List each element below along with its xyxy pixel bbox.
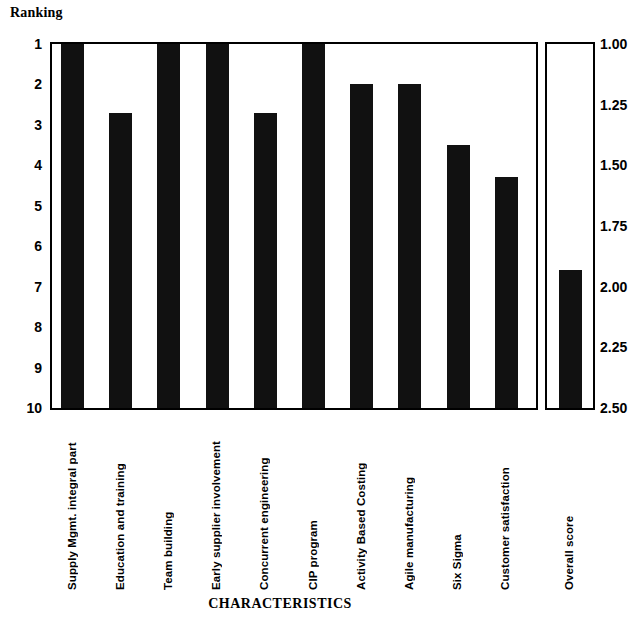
bar-3 — [157, 44, 180, 408]
category-label-7: Activity Based Costing — [355, 412, 367, 590]
ranking-bar-chart: Ranking 12345678910 1.001.251.501.752.00… — [0, 0, 643, 626]
category-label-9: Six Sigma — [451, 412, 463, 590]
category-label-10: Customer satisfaction — [499, 412, 511, 590]
bar-7 — [350, 84, 373, 408]
bar-10 — [495, 177, 518, 408]
category-label-overall-score: Overall score — [563, 412, 575, 590]
bar-2 — [109, 113, 132, 408]
category-label-6: CIP program — [307, 412, 319, 590]
bar-6 — [302, 44, 325, 408]
bar-4 — [206, 44, 229, 408]
category-label-8: Agile manufacturing — [403, 412, 415, 590]
category-label-3: Team building — [162, 412, 174, 590]
category-label-5: Concurrent engineering — [258, 412, 270, 590]
x-axis-title: CHARACTERISTICS — [0, 596, 560, 612]
category-label-1: Supply Mgmt. integral part — [66, 412, 78, 590]
bar-1 — [61, 44, 84, 408]
bar-9 — [447, 145, 470, 408]
category-label-2: Education and training — [114, 412, 126, 590]
category-label-4: Early supplier involvement — [210, 412, 222, 590]
bar-8 — [398, 84, 421, 408]
bar-overall-score — [559, 270, 582, 408]
bar-5 — [254, 113, 277, 408]
category-labels: Supply Mgmt. integral partEducation and … — [0, 412, 643, 592]
